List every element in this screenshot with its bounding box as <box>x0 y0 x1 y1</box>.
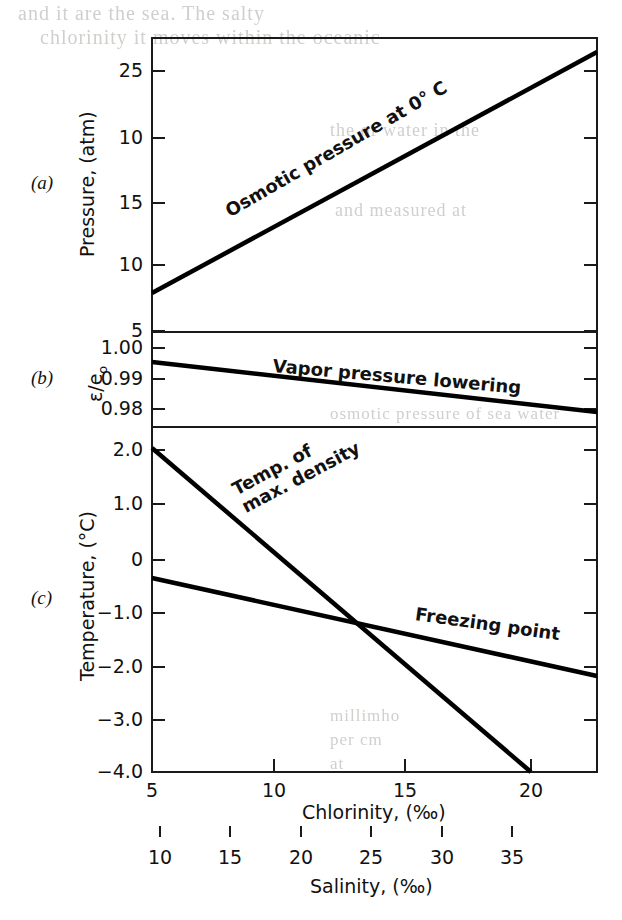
curve-temp-max-density <box>152 448 531 772</box>
ytick-label-c: −2.0 <box>97 655 143 677</box>
xtick-label-salinity: 15 <box>200 846 260 868</box>
xtick-label-salinity: 10 <box>130 846 190 868</box>
ytick-label-c: −1.0 <box>97 601 143 623</box>
panel-id-a: (a) <box>31 172 53 194</box>
ytick-label-b: 1.00 <box>101 336 143 358</box>
curve-osmotic-pressure <box>152 52 597 293</box>
xtick-label-chlorinity: 10 <box>244 779 304 801</box>
ytick-label-c: 0 <box>131 548 143 570</box>
ytick-label-a: 15 <box>119 191 143 213</box>
figure-root: and it are the sea. The saltychlorinity … <box>0 0 622 920</box>
panel-frame-a <box>152 38 597 332</box>
xtick-label-chlorinity: 20 <box>501 779 561 801</box>
axis-title-c: Temperature, (°C) <box>76 511 98 681</box>
ytick-label-c: −3.0 <box>97 708 143 730</box>
axis-ticks <box>152 71 597 837</box>
axis-title-b-subscript: o <box>95 365 110 373</box>
axis-title-b-text: ε/e <box>84 373 106 401</box>
panel-frame-c <box>152 427 597 772</box>
axis-title-chlorinity: Chlorinity, (‰) <box>302 801 446 823</box>
xtick-label-salinity: 35 <box>482 846 542 868</box>
ytick-label-a: 10 <box>119 126 143 148</box>
panel-id-c: (c) <box>31 587 52 609</box>
axis-title-a: Pressure, (atm) <box>76 111 98 257</box>
xtick-label-salinity: 25 <box>341 846 401 868</box>
ytick-label-a: 25 <box>119 59 143 81</box>
ytick-label-a: 10 <box>119 253 143 275</box>
xtick-label-salinity: 20 <box>271 846 331 868</box>
ytick-label-c: 1.0 <box>113 492 143 514</box>
xtick-label-salinity: 30 <box>412 846 472 868</box>
axis-title-salinity: Salinity, (‰) <box>310 875 433 897</box>
panel-id-b: (b) <box>31 367 53 389</box>
axis-title-b: ε/eo <box>84 365 110 401</box>
xtick-label-chlorinity: 15 <box>375 779 435 801</box>
data-curves <box>152 52 597 772</box>
xtick-label-chlorinity: 5 <box>122 779 182 801</box>
ytick-label-c: 2.0 <box>113 438 143 460</box>
